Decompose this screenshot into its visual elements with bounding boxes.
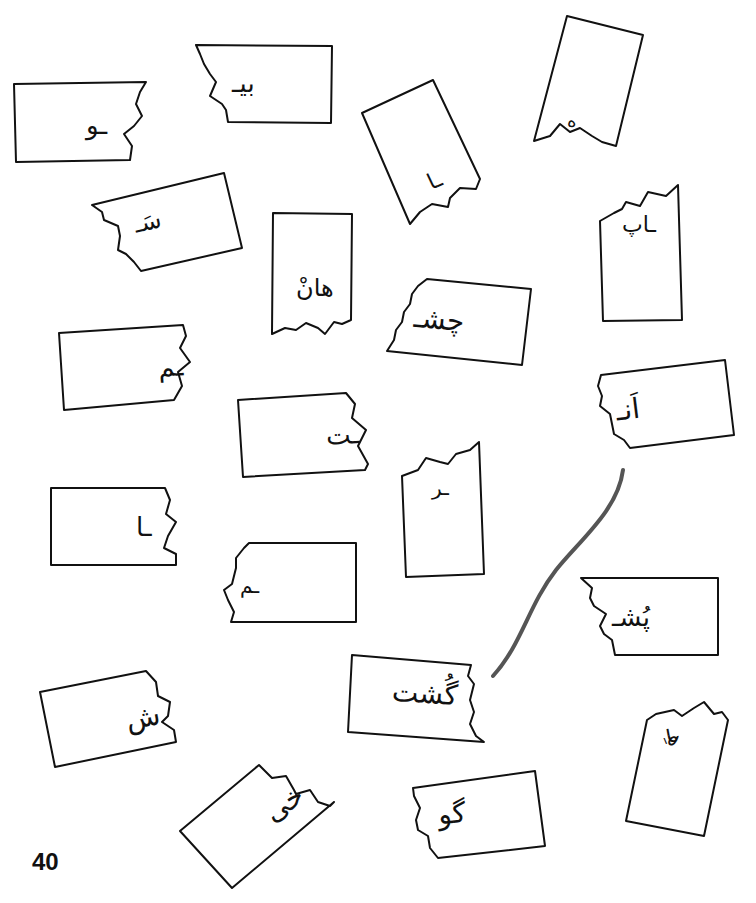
fragment-text: سَـ — [132, 207, 164, 236]
fragment-text: ـت — [325, 421, 359, 449]
fragment-text: گُشت — [391, 678, 459, 711]
fragment-text: ـر — [432, 478, 449, 498]
fragment-text: گو — [437, 799, 468, 830]
fragment-text: چشـ — [413, 304, 466, 336]
fragment-card[interactable] — [626, 702, 728, 836]
fragment-card[interactable] — [534, 16, 643, 146]
fragment-text: ـا — [136, 514, 152, 540]
fragment-text: ـاپ — [622, 214, 656, 236]
fragment-card[interactable] — [180, 765, 334, 888]
fragment-card[interactable] — [600, 185, 682, 321]
fragment-card[interactable] — [14, 82, 146, 162]
fragment-text: پُشـ — [612, 604, 650, 630]
answer-connector-line — [493, 470, 623, 676]
worksheet-page: ـو بیـ ه ـا سَـ هانْ چشـ ـاپ ـم ـت اَنـ … — [0, 0, 756, 903]
fragment-text: ـم — [157, 353, 184, 381]
fragment-text: ش — [124, 701, 163, 735]
fragment-text: بیـ — [232, 70, 255, 96]
fragment-card[interactable] — [362, 80, 480, 224]
fragment-text: ـو — [86, 112, 107, 138]
fragments-outlines — [0, 0, 756, 903]
fragment-text: اَنـ — [614, 395, 641, 426]
fragment-card[interactable] — [51, 488, 176, 565]
page-number: 40 — [32, 848, 59, 876]
fragment-card[interactable] — [196, 45, 332, 123]
fragment-card[interactable] — [402, 442, 484, 577]
fragment-text: هانْ — [296, 276, 334, 300]
fragment-card[interactable] — [92, 173, 242, 271]
fragment-card[interactable] — [413, 771, 545, 858]
fragment-text: هِـ — [663, 726, 688, 748]
fragment-text: ـم — [240, 576, 259, 596]
